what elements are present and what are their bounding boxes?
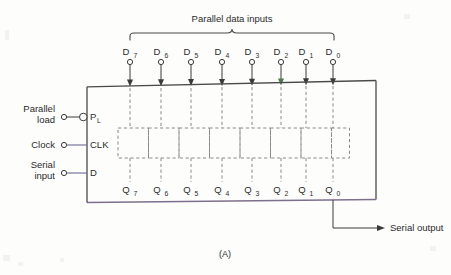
pin-name-serial-input: D	[90, 167, 97, 178]
figure-canvas: Parallel data inputs	[0, 0, 451, 275]
data-output-sub: 6	[165, 190, 169, 197]
data-input-label: D	[184, 46, 191, 57]
serial-input-terminal	[61, 170, 66, 175]
data-output-label: Q	[214, 184, 221, 195]
data-output-label: Q	[122, 184, 129, 195]
data-output-label: Q	[153, 184, 160, 195]
data-output-label: Q	[244, 184, 251, 195]
parallel-inputs-bracket	[130, 29, 334, 40]
data-output-sub: 7	[134, 190, 138, 197]
data-input-label: D	[123, 46, 130, 57]
pin-name-clock: CLK	[90, 139, 109, 150]
data-output-sub: 3	[256, 190, 260, 197]
parallel-load-terminal	[61, 114, 66, 119]
serial-input-label-line1: Serial	[31, 159, 55, 170]
data-input-label: D	[326, 46, 333, 57]
left-pin-labels: Parallel load Clock Serial input	[23, 103, 55, 181]
pin-sub-parallel-load: L	[97, 117, 101, 124]
serial-output-path	[333, 200, 385, 231]
data-output-sub: 5	[195, 190, 199, 197]
data-output-sub: 4	[226, 190, 230, 197]
figure-caption: (A)	[219, 249, 231, 259]
internal-pin-names: P L CLK D	[90, 111, 109, 178]
data-input-sub: 1	[310, 52, 314, 59]
data-input-label: D	[215, 46, 222, 57]
serial-output-label: Serial output	[390, 222, 444, 233]
data-input-label: D	[245, 46, 252, 57]
parallel-load-label-line2: load	[37, 114, 55, 125]
data-input-sub: 6	[165, 52, 169, 59]
data-output-label: Q	[183, 184, 190, 195]
data-output-sub: 0	[337, 190, 341, 197]
pin-name-parallel-load: P	[90, 111, 96, 122]
data-input-label: D	[274, 46, 281, 57]
data-input-sub: 5	[195, 52, 199, 59]
left-pin-wires	[61, 113, 87, 175]
data-input-sub: 4	[226, 52, 230, 59]
data-output-label: Q	[298, 184, 305, 195]
data-output-label: Q	[325, 184, 332, 195]
data-output-sub: 1	[310, 190, 314, 197]
shift-register-diagram: Parallel data inputs	[0, 0, 451, 275]
clock-terminal	[61, 142, 66, 147]
serial-input-label-line2: input	[34, 170, 55, 181]
data-output-labels: Q 7 Q 6 Q 5 Q 4 Q 3 Q 2 Q 1 Q 0	[122, 184, 340, 197]
clock-label: Clock	[31, 139, 55, 150]
serial-output-arrowhead	[377, 225, 385, 231]
data-output-label: Q	[273, 184, 280, 195]
data-input-sub: 0	[337, 52, 341, 59]
parallel-inputs-label: Parallel data inputs	[192, 13, 273, 24]
data-input-label: D	[154, 46, 161, 57]
data-output-sub: 2	[285, 190, 289, 197]
data-input-labels: D 7 D 6 D 5 D 4 D 3 D 2 D 1 D 0	[123, 46, 341, 59]
data-input-sub: 2	[285, 52, 289, 59]
data-input-label: D	[299, 46, 306, 57]
data-input-sub: 3	[256, 52, 260, 59]
data-input-sub: 7	[134, 52, 138, 59]
internal-register-cells	[118, 86, 350, 182]
parallel-load-inverting-bubble	[80, 113, 88, 121]
parallel-load-label-line1: Parallel	[23, 103, 55, 114]
